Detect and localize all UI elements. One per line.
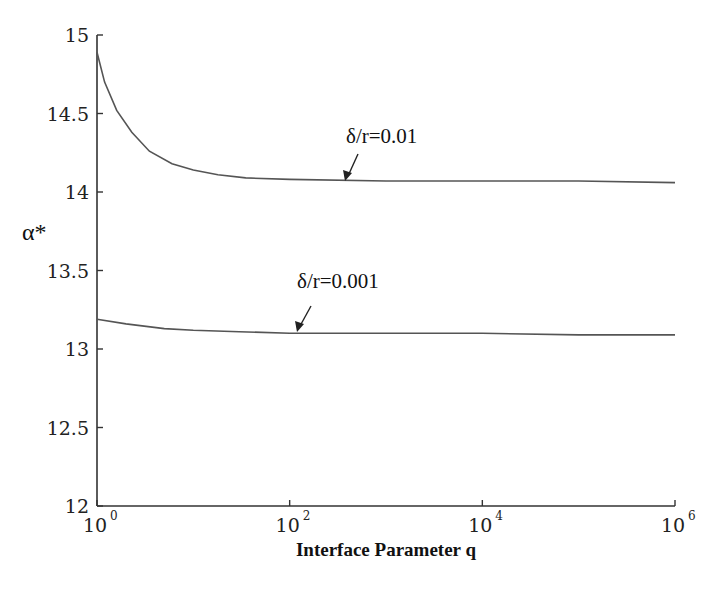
x-tick-label: 102 — [276, 509, 311, 536]
annotation-bottom: δ/r=0.001 — [295, 269, 379, 332]
y-tick-label: 13 — [65, 338, 89, 360]
svg-text:10: 10 — [661, 514, 685, 536]
y-axis-label: α* — [22, 219, 47, 245]
x-tick-label: 104 — [468, 509, 503, 536]
svg-text:4: 4 — [495, 509, 503, 523]
annotation-top: δ/r=0.01 — [343, 124, 417, 181]
svg-text:10: 10 — [276, 514, 300, 536]
y-tick-label: 13.5 — [47, 260, 89, 282]
y-tick-label: 14 — [65, 181, 89, 203]
svg-text:10: 10 — [83, 514, 107, 536]
svg-text:2: 2 — [303, 509, 311, 523]
x-axis-label: Interface Parameter q — [296, 539, 476, 560]
y-tick-label: 14.5 — [47, 103, 89, 125]
y-ticks: 1212.51313.51414.515 — [47, 24, 103, 517]
arrow-head-icon — [295, 321, 304, 332]
x-tick-label: 106 — [661, 509, 696, 536]
annotation-label: δ/r=0.01 — [346, 124, 417, 148]
chart: 1212.51313.51414.515 100102104106 Interf… — [0, 0, 717, 595]
y-tick-label: 12.5 — [47, 417, 89, 439]
plot-lines — [97, 52, 675, 335]
x-tick-label: 100 — [83, 509, 118, 536]
series-line-2 — [97, 319, 675, 335]
svg-text:6: 6 — [688, 509, 696, 523]
axes — [97, 35, 675, 506]
arrow-line — [300, 306, 311, 326]
svg-text:10: 10 — [468, 514, 492, 536]
annotation-label: δ/r=0.001 — [297, 269, 379, 293]
series-line-1 — [97, 52, 675, 182]
svg-text:0: 0 — [110, 509, 118, 523]
y-tick-label: 15 — [65, 24, 89, 46]
